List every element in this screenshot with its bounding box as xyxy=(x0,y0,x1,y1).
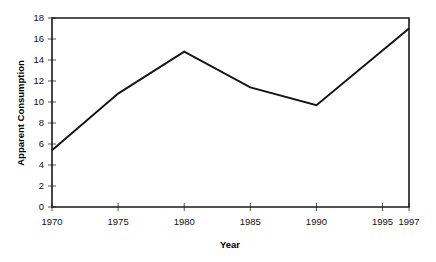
y-tick-label: 2 xyxy=(39,180,44,191)
x-tick-label: 1980 xyxy=(174,216,195,227)
y-tick-label: 0 xyxy=(39,201,44,212)
chart-canvas: 024681012141618 197019751980198519901995… xyxy=(0,0,436,262)
y-tick-label: 14 xyxy=(33,54,44,65)
data-series-line xyxy=(52,29,409,151)
x-tick-label: 1997 xyxy=(398,216,419,227)
x-tick-label: 1975 xyxy=(108,216,129,227)
x-tick-label: 1990 xyxy=(306,216,327,227)
y-tick-label: 6 xyxy=(39,138,44,149)
y-tick-label: 10 xyxy=(33,96,44,107)
x-tick-label: 1970 xyxy=(41,216,62,227)
x-axis-tick-labels: 1970197519801985199019951997 xyxy=(41,216,419,227)
y-axis-title: Apparent Consumption xyxy=(15,60,26,166)
x-tick-label: 1995 xyxy=(372,216,393,227)
plot-frame xyxy=(52,18,409,207)
y-tick-label: 8 xyxy=(39,117,44,128)
y-tick-label: 18 xyxy=(33,12,44,23)
y-tick-label: 12 xyxy=(33,75,44,86)
x-tick-label: 1985 xyxy=(240,216,261,227)
y-axis-tick-labels: 024681012141618 xyxy=(33,12,44,212)
x-axis-title: Year xyxy=(220,239,240,250)
y-tick-label: 16 xyxy=(33,33,44,44)
y-tick-label: 4 xyxy=(39,159,44,170)
line-chart: 024681012141618 197019751980198519901995… xyxy=(0,0,436,262)
